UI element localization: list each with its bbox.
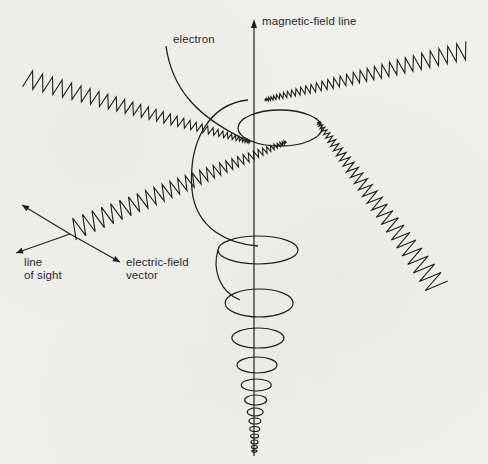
electron-label: electron	[173, 33, 215, 46]
direction-arrows	[16, 205, 120, 262]
line-of-sight-label-line1: line	[24, 256, 42, 269]
magnetic-field-line-label: magnetic-field line	[262, 15, 357, 28]
electric-field-vector-label-line2: vector	[126, 269, 158, 282]
electron-helix-path	[166, 46, 322, 452]
synchrotron-radiation-diagram: magnetic-field line electron line of sig…	[0, 0, 488, 464]
radiation-wave-beams	[23, 41, 466, 290]
diagram-canvas	[0, 0, 488, 464]
electric-field-vector-label-line1: electric-field	[126, 256, 189, 269]
line-of-sight-label-line2: of sight	[24, 269, 62, 282]
